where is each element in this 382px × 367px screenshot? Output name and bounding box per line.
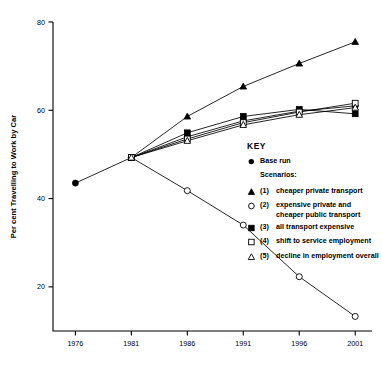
legend-item-scenario-5: (5)decline in employment overall: [247, 251, 379, 262]
legend-title: KEY: [247, 141, 379, 151]
x-axis-tick-label: 1991: [235, 339, 251, 348]
y-axis-title: Per cent Travelling to Work by Car: [9, 115, 18, 239]
y-axis-tick-label: 40: [37, 194, 45, 203]
legend-item-number: (3): [260, 222, 276, 231]
legend-item-scenario-1: (1)cheaper private transport: [247, 186, 379, 197]
legend-item-scenario-4: (4)shift to service employment: [247, 236, 379, 247]
data-point-marker: [352, 313, 358, 319]
data-point-marker: [240, 83, 247, 89]
filled-square-icon: [247, 222, 260, 233]
legend-item-label: all transport expensive: [276, 222, 354, 231]
legend-item-scenario-3: (3)all transport expensive: [247, 222, 379, 233]
legend-item-number: (1): [260, 186, 276, 195]
legend-item-label: decline in employment overall: [276, 251, 379, 260]
data-point-marker: [240, 114, 246, 120]
x-axis-tick-label: 1986: [179, 339, 195, 348]
legend-item-number: (5): [260, 251, 276, 260]
y-axis-tick-label: 60: [37, 106, 45, 115]
data-point-marker: [240, 222, 246, 228]
legend-entry-list: (1)cheaper private transport(2)expensive…: [247, 186, 379, 262]
data-point-marker: [352, 111, 358, 117]
data-point-marker: [296, 274, 302, 280]
open-triangle-icon: [247, 251, 260, 262]
x-axis-tick-label: 1976: [67, 339, 83, 348]
open-square-icon: [247, 236, 260, 247]
legend-item-number: (2): [260, 200, 276, 209]
data-point-marker: [352, 38, 359, 44]
legend-item-label: expensive private and cheaper public tra…: [276, 200, 379, 218]
y-axis-tick-label: 80: [37, 18, 45, 27]
data-point-marker: [72, 180, 78, 186]
open-circle-icon: [247, 200, 260, 211]
chart-container: 20406080197619811986199119962001Per cent…: [0, 0, 382, 367]
x-axis-tick-label: 1981: [123, 339, 139, 348]
data-point-marker: [296, 60, 303, 66]
legend-item-number: (4): [260, 236, 276, 245]
legend-item-base-run: Base run: [247, 156, 379, 166]
data-point-marker: [184, 113, 191, 119]
legend-item-label: cheaper private transport: [276, 186, 363, 195]
chart-legend-key: KEY Base run Scenarios: (1)cheaper priva…: [247, 141, 379, 265]
legend-item-label: shift to service employment: [276, 236, 371, 245]
filled-triangle-icon: [247, 186, 260, 197]
legend-item-scenario-2: (2)expensive private and cheaper public …: [247, 200, 379, 218]
legend-item-label: Base run: [260, 156, 291, 165]
y-axis-tick-label: 20: [37, 282, 45, 291]
data-point-marker: [184, 188, 190, 194]
x-axis-tick-label: 2001: [347, 339, 363, 348]
data-point-marker: [184, 130, 190, 136]
x-axis-tick-label: 1996: [291, 339, 307, 348]
filled-circle-icon: [247, 156, 260, 166]
legend-scenarios-heading: Scenarios:: [260, 170, 379, 179]
